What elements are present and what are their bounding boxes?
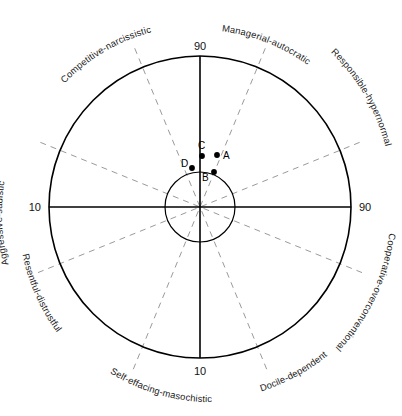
- data-point-label-a: A: [223, 150, 230, 161]
- data-point-a: [214, 152, 220, 158]
- data-point-label-d: D: [181, 158, 188, 169]
- tick-label-left: 10: [29, 201, 41, 213]
- sector-label-docile-dependent: Docile-dependent: [258, 348, 329, 393]
- circumplex-plot: 90 10 10 90 Managerial-autocratic Compet…: [0, 0, 402, 416]
- data-point-d: [189, 165, 195, 171]
- sector-label-resentful-distrustful: Resentful-distrustful: [20, 252, 64, 333]
- sector-text-cooperative: Cooperative-overconventional: [334, 233, 399, 354]
- data-points-group: ABCD: [181, 140, 230, 183]
- circumplex-figure: 90 10 10 90 Managerial-autocratic Compet…: [0, 0, 402, 416]
- sector-label-competitive-narcissistic: Competitive-narcissistic: [58, 23, 152, 84]
- sector-text-docile: Docile-dependent: [258, 348, 329, 393]
- sector-text-responsible: Responsible-hypernormal: [329, 46, 394, 147]
- sector-text-aggressive: Aggressive-sadistic: [0, 180, 10, 267]
- sector-label-responsible-hypernormal: Responsible-hypernormal: [329, 46, 394, 147]
- data-point-c: [199, 153, 205, 159]
- sector-label-aggressive-sadistic: Aggressive-sadistic: [0, 180, 10, 267]
- sector-text-resentful: Resentful-distrustful: [20, 252, 64, 333]
- data-point-b: [211, 169, 217, 175]
- tick-label-top: 90: [194, 40, 206, 52]
- tick-label-right: 90: [359, 201, 371, 213]
- tick-label-bottom: 10: [194, 365, 206, 377]
- data-point-label-b: B: [202, 172, 209, 183]
- sector-label-cooperative-overconventional: Cooperative-overconventional: [334, 233, 399, 354]
- data-point-label-c: C: [198, 140, 205, 151]
- sector-text-competitive: Competitive-narcissistic: [58, 23, 152, 84]
